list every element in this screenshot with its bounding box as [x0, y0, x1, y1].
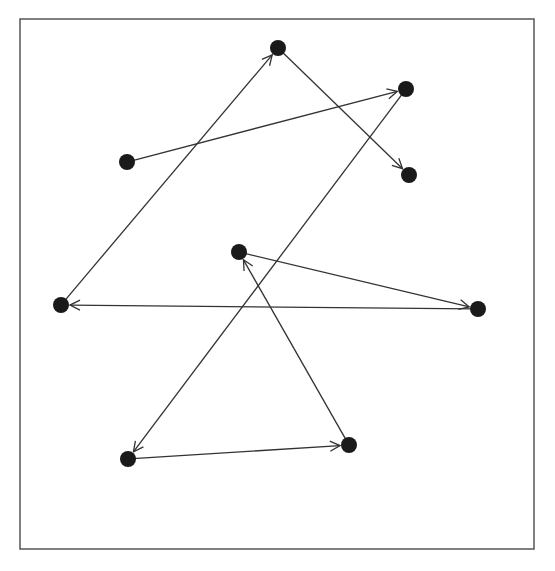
- edge-n5-n7: [244, 253, 470, 307]
- nodes-group: [53, 40, 486, 467]
- node-n6: [53, 297, 69, 313]
- edge-n9-n8: [133, 446, 340, 459]
- edge-n3-n2: [132, 91, 398, 161]
- edges-group: [64, 51, 473, 458]
- edge-n2-n9: [133, 93, 403, 452]
- node-n2: [398, 81, 414, 97]
- node-n1: [270, 40, 286, 56]
- graph-canvas: [0, 0, 555, 571]
- edge-n1-n4: [281, 51, 402, 168]
- node-n5: [231, 244, 247, 260]
- diagram-frame: [20, 19, 534, 549]
- node-n7: [470, 301, 486, 317]
- node-n9: [120, 451, 136, 467]
- node-n4: [401, 167, 417, 183]
- node-n8: [341, 437, 357, 453]
- edge-n6-n1: [64, 55, 272, 301]
- edge-n8-n5: [243, 260, 346, 441]
- node-n3: [119, 154, 135, 170]
